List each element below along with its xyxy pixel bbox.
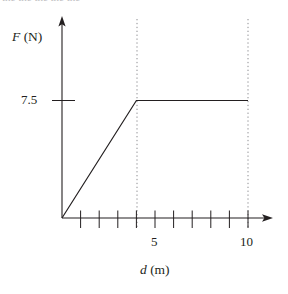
y-axis-label-unit: (N) [24, 29, 43, 44]
force-displacement-chart: the the the the the [0, 0, 288, 294]
x-tick-label-5: 5 [151, 235, 158, 248]
force-curve [62, 101, 248, 219]
x-axis-ticks [81, 211, 248, 229]
y-axis-label: F (N) [12, 30, 42, 44]
plot-canvas [0, 0, 288, 294]
x-axis-label: d (m) [140, 263, 170, 277]
y-tick-label-7point5: 7.5 [21, 93, 37, 106]
x-axis-label-unit: (m) [150, 262, 170, 277]
x-tick-label-10: 10 [240, 235, 253, 248]
y-axis-label-variable: F [12, 29, 20, 44]
x-axis-label-variable: d [140, 262, 147, 277]
